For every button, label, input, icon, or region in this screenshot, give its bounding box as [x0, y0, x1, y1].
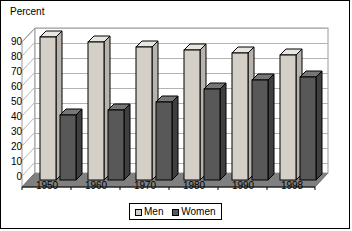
- y-tick-label: 0: [0, 172, 22, 182]
- x-tick-label-1980: 1980: [171, 181, 217, 191]
- gridline-50: [35, 88, 328, 89]
- x-tick-label-1998: 1998: [269, 181, 315, 191]
- y-tick-label: 30: [0, 127, 22, 137]
- legend-entry-men: Men: [135, 206, 163, 217]
- y-tick-label: 50: [0, 97, 22, 107]
- chart-container: Percent 90 80 70 60 50 40 30 20 10 0: [0, 0, 352, 231]
- y-tick-label: 90: [0, 37, 22, 47]
- gridline-10: [35, 148, 328, 149]
- gridline-60: [35, 73, 328, 74]
- y-tick-label: 40: [0, 112, 22, 122]
- gridline-0: [35, 163, 328, 164]
- gridline-90: [35, 28, 328, 29]
- gridline-80: [35, 43, 328, 44]
- x-tick-label-1970: 1970: [122, 181, 168, 191]
- x-tick-label-1950: 1950: [24, 181, 70, 191]
- gridline-40: [35, 103, 328, 104]
- chart-legend: Men Women: [129, 203, 222, 220]
- legend-label-women: Women: [181, 206, 215, 217]
- legend-swatch-men-icon: [135, 209, 142, 216]
- chart-frame: [0, 0, 350, 229]
- y-tick-label: 80: [0, 52, 22, 62]
- x-tick-label-1960: 1960: [73, 181, 119, 191]
- y-tick-label: 20: [0, 142, 22, 152]
- y-tick-label: 10: [0, 157, 22, 167]
- legend-swatch-women-icon: [172, 209, 179, 216]
- y-tick-label: 60: [0, 82, 22, 92]
- y-tick-label: 70: [0, 67, 22, 77]
- legend-entry-women: Women: [172, 206, 215, 217]
- gridline-20: [35, 133, 328, 134]
- legend-label-men: Men: [144, 206, 163, 217]
- gridline-30: [35, 118, 328, 119]
- x-tick-label-1990: 1990: [220, 181, 266, 191]
- gridline-70: [35, 58, 328, 59]
- y-axis-title: Percent: [10, 6, 44, 18]
